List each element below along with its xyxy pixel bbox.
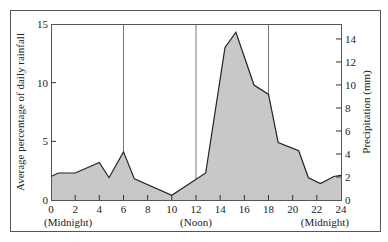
x-tick-label: 8 [145,203,151,215]
y-right-tick-label: 6 [345,125,351,137]
y-right-tick-label: 2 [345,171,351,183]
x-tick-label: 0 [48,203,54,215]
y-tick-label: 0 [43,194,49,206]
y-axis-left-label: Average percentage of daily rainfall [14,33,26,191]
x-tick-label: 12 [191,203,202,215]
y-right-tick-label: 4 [345,148,351,160]
y-right-tick-label: 0 [345,194,351,206]
x-annotation: (Midnight) [301,216,350,229]
y-right-tick-label: 14 [345,33,357,45]
x-tick-label: 18 [263,203,275,215]
y-right-tick-label: 10 [345,79,357,91]
x-tick-label: 16 [239,203,251,215]
y-tick-label: 10 [37,77,49,89]
y-tick-label: 5 [43,135,49,147]
x-annotation: (Noon) [180,216,212,229]
x-tick-label: 6 [121,203,127,215]
rainfall-chart: 024681012141618202224 051015 02468101214… [0,0,388,242]
x-tick-label: 14 [215,203,227,215]
y-right-tick-label: 8 [345,102,351,114]
x-axis-annotations: (Midnight)(Noon)(Midnight) [44,216,349,229]
x-tick-label: 22 [311,203,322,215]
x-tick-label: 10 [166,203,178,215]
y-tick-label: 15 [37,18,49,30]
y-right-tick-label: 12 [345,56,356,68]
x-annotation: (Midnight) [44,216,93,229]
x-tick-label: 4 [97,203,103,215]
y-axis-right-label: Precipitation (mm) [360,70,373,154]
x-tick-label: 20 [287,203,299,215]
x-tick-label: 2 [72,203,78,215]
